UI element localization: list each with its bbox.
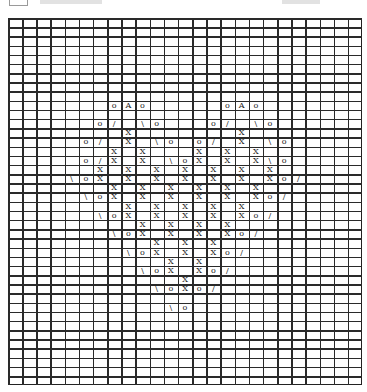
chart-symbol: X	[192, 257, 206, 266]
chart-symbol: X	[206, 238, 220, 247]
chart-symbol: \	[150, 137, 164, 146]
chart-symbol: X	[220, 183, 234, 192]
chart-symbol: X	[178, 238, 192, 247]
chart-symbol: \	[135, 119, 149, 128]
chart-symbol: X	[206, 211, 220, 220]
chart-symbol: X	[107, 183, 121, 192]
chart-symbol: X	[192, 266, 206, 275]
chart-symbol: X	[164, 192, 178, 201]
chart-symbol: \	[79, 192, 93, 201]
chart-symbol: o	[277, 137, 291, 146]
chart-symbol: /	[263, 211, 277, 220]
chart-symbol: X	[178, 174, 192, 183]
chart-symbol: X	[249, 183, 263, 192]
chart-symbol: /	[93, 137, 107, 146]
chart-symbol: \	[249, 119, 263, 128]
chart-symbol: o	[277, 156, 291, 165]
chart-symbol: X	[135, 183, 149, 192]
chart-symbol: X	[135, 156, 149, 165]
grid-row-line	[8, 101, 362, 103]
chart-symbol: X	[107, 192, 121, 201]
chart-symbol: X	[235, 211, 249, 220]
grid-row-line	[8, 64, 362, 66]
grid-row-line	[8, 183, 362, 185]
chart-symbol: o	[263, 119, 277, 128]
grid-row-line	[8, 367, 362, 369]
chart-symbol: X	[121, 211, 135, 220]
chart-symbol: X	[235, 137, 249, 146]
chart-symbol: o	[178, 303, 192, 312]
grid-row-line	[8, 358, 362, 360]
chart-symbol: X	[192, 229, 206, 238]
chart-symbol: X	[121, 128, 135, 137]
chart-symbol: \	[65, 174, 79, 183]
grid-row-line	[8, 128, 362, 130]
chart-symbol: \	[164, 303, 178, 312]
chart-symbol: X	[192, 156, 206, 165]
grid-row-line	[8, 73, 362, 75]
chart-symbol: X	[150, 238, 164, 247]
chart-symbol: o	[79, 137, 93, 146]
chart-symbol: \	[93, 211, 107, 220]
chart-symbol: o	[249, 101, 263, 110]
chart-symbol: X	[220, 220, 234, 229]
chart-symbol: X	[249, 147, 263, 156]
chart-symbol: o	[192, 137, 206, 146]
chart-symbol: X	[178, 202, 192, 211]
chart-symbol: X	[220, 156, 234, 165]
chart-symbol: o	[235, 229, 249, 238]
chart-symbol: \	[135, 266, 149, 275]
chart-symbol: o	[135, 248, 149, 257]
chart-symbol: X	[107, 156, 121, 165]
chart-symbol: \	[107, 229, 121, 238]
chart-symbol: X	[164, 266, 178, 275]
chart-symbol: o	[206, 119, 220, 128]
chart-symbol: X	[249, 192, 263, 201]
chart-symbol: X	[235, 165, 249, 174]
chart-symbol: X	[178, 211, 192, 220]
chart-symbol: X	[121, 174, 135, 183]
chart-symbol: o	[206, 266, 220, 275]
chart-symbol: /	[93, 156, 107, 165]
chart-symbol: X	[150, 211, 164, 220]
chart-symbol: X	[150, 165, 164, 174]
chart-symbol: /	[249, 229, 263, 238]
header-icon	[9, 0, 28, 6]
chart-symbol: /	[220, 266, 234, 275]
chart-symbol: \	[121, 248, 135, 257]
chart-symbol: X	[235, 174, 249, 183]
chart-symbol: o	[192, 284, 206, 293]
chart-symbol: X	[263, 174, 277, 183]
chart-symbol: o	[263, 192, 277, 201]
chart-symbol: /	[291, 174, 305, 183]
chart-symbol: X	[235, 202, 249, 211]
chart-symbol: X	[135, 220, 149, 229]
chart-symbol: X	[220, 229, 234, 238]
chart-symbol: X	[206, 248, 220, 257]
chart-symbol: o	[220, 248, 234, 257]
chart-symbol: X	[192, 183, 206, 192]
chart-symbol: X	[249, 156, 263, 165]
chart-symbol: X	[164, 229, 178, 238]
grid-row-line	[8, 82, 362, 84]
chart-symbol: o	[220, 101, 234, 110]
chart-symbol: X	[235, 128, 249, 137]
chart-symbol: /	[107, 119, 121, 128]
chart-symbol: X	[93, 165, 107, 174]
header-meta-faded	[282, 0, 320, 4]
grid-row-line	[8, 55, 362, 57]
chart-symbol: o	[249, 211, 263, 220]
chart-symbol: o	[277, 174, 291, 183]
chart-symbol: o	[93, 119, 107, 128]
grid-row-line	[8, 137, 362, 139]
chart-symbol: A	[121, 101, 135, 110]
chart-symbol: o	[164, 137, 178, 146]
chart-symbol: X	[192, 147, 206, 156]
chart-symbol: X	[178, 275, 192, 284]
chart-symbol: X	[178, 165, 192, 174]
chart-symbol: X	[164, 183, 178, 192]
chart-symbol: o	[79, 174, 93, 183]
chart-symbol: X	[121, 165, 135, 174]
chart-symbol: X	[93, 174, 107, 183]
chart-symbol: X	[164, 257, 178, 266]
